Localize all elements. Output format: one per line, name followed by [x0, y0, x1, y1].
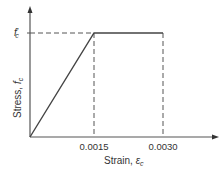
x-axis-label: Strain, εc — [104, 155, 144, 167]
y-axis — [28, 6, 33, 137]
stress-strain-line — [30, 33, 163, 137]
x-tick-label-0.0015: 0.0015 — [79, 141, 108, 152]
dashed-guides — [30, 33, 163, 137]
y-axis-label: Stress, fc — [12, 77, 24, 118]
y-tick-label: f′c — [14, 26, 19, 39]
stress-strain-chart: f′c Stress, fc 0.0015 0.0030 Strain, εc — [0, 0, 222, 169]
y-axis-arrow-icon — [28, 6, 33, 13]
x-tick-label-0.0030: 0.0030 — [148, 141, 177, 152]
x-axis — [30, 135, 219, 140]
x-axis-arrow-icon — [212, 135, 219, 140]
